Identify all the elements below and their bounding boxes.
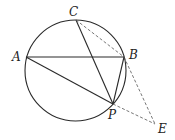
- label-E: E: [157, 122, 167, 136]
- segment-CP: [76, 20, 113, 104]
- label-P: P: [107, 108, 117, 122]
- segment-AP: [26, 57, 113, 104]
- segment-BE-dashed: [124, 57, 155, 124]
- label-A: A: [11, 50, 21, 64]
- segment-CB-dashed: [76, 20, 124, 57]
- label-B: B: [128, 48, 138, 62]
- segment-PE-dashed: [113, 104, 155, 124]
- label-C: C: [69, 5, 78, 19]
- geometry-diagram: C A B P E: [0, 0, 175, 140]
- circle: [25, 20, 126, 121]
